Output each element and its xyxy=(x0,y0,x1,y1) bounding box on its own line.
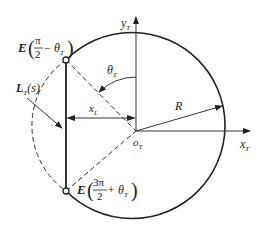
svg-text:(: ( xyxy=(28,37,35,60)
point-e-bottom-label: E ( 3π 2 + θT ) xyxy=(76,176,138,202)
point-e-bottom xyxy=(63,188,69,194)
radius-label: R xyxy=(174,99,183,113)
dashed-arc xyxy=(32,60,66,191)
svg-text:3π: 3π xyxy=(93,176,105,188)
diagram-canvas: yT xT oT R θT xL LT(s) E ( π 2 − θT ) E … xyxy=(0,0,265,235)
theta-label: θT xyxy=(107,63,118,79)
theta-arc xyxy=(99,77,136,92)
svg-text:+ θT: + θT xyxy=(107,183,129,199)
svg-text:E: E xyxy=(17,40,27,55)
origin-label: oT xyxy=(133,136,144,151)
svg-text:2: 2 xyxy=(97,190,103,202)
svg-text:π: π xyxy=(35,34,41,46)
svg-text:− θT: − θT xyxy=(43,41,65,57)
point-e-top-label: E ( π 2 − θT ) xyxy=(17,34,74,60)
svg-text:): ) xyxy=(67,37,74,60)
svg-text:E: E xyxy=(76,182,86,197)
x-axis-label: xT xyxy=(239,137,250,153)
y-axis-label: yT xyxy=(120,16,131,32)
svg-text:): ) xyxy=(131,179,138,202)
dashed-radius-top xyxy=(66,60,136,131)
svg-text:2: 2 xyxy=(35,48,41,60)
xl-label: xL xyxy=(88,102,98,117)
lt-label: LT(s) xyxy=(15,81,40,97)
